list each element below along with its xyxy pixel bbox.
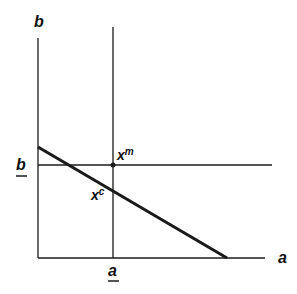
constraint-line <box>38 147 227 258</box>
b-bar-label: b <box>16 156 26 173</box>
a-bar-label: a <box>108 262 117 279</box>
xm-point <box>111 163 116 168</box>
xm-label: xm <box>116 146 134 163</box>
x-axis-label: a <box>278 249 287 266</box>
y-axis-label: b <box>34 13 44 30</box>
diagram-canvas: b a b a xm xc <box>0 0 297 294</box>
xm-superscript: m <box>125 146 134 157</box>
xc-label: xc <box>90 186 105 203</box>
diagram-svg: b a b a xm xc <box>0 0 297 294</box>
xc-superscript: c <box>99 186 105 197</box>
